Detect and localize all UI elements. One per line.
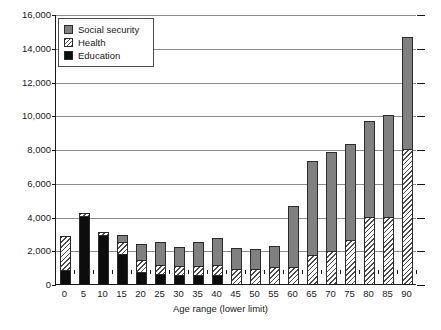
bar-slot[interactable]: [307, 15, 319, 284]
bar-segment-social-security[interactable]: [136, 244, 148, 260]
bar-stack[interactable]: [364, 121, 376, 284]
bar-stack[interactable]: [136, 244, 148, 284]
bar-segment-health[interactable]: [364, 217, 376, 284]
x-axis-tick: [169, 270, 170, 274]
bar-segment-social-security[interactable]: [326, 152, 338, 252]
legend-item-education: Education: [64, 49, 148, 62]
x-axis-tick-label: 45: [226, 288, 245, 299]
bar-segment-social-security[interactable]: [345, 144, 357, 240]
bar-segment-health[interactable]: [136, 260, 148, 272]
bar-slot[interactable]: [155, 15, 167, 284]
bar-segment-education[interactable]: [79, 216, 91, 284]
chart-legend: Social security Health Education: [58, 18, 154, 67]
bar-stack[interactable]: [193, 242, 205, 284]
y-axis-tick-label: 8,000: [27, 145, 51, 155]
bar-slot[interactable]: [174, 15, 186, 284]
bar-segment-health[interactable]: [117, 242, 129, 254]
education-swatch: [64, 51, 73, 60]
bar-slot[interactable]: [364, 15, 376, 284]
x-axis-tick-label: 60: [283, 288, 302, 299]
bar-slot[interactable]: [250, 15, 262, 284]
bar-segment-health[interactable]: [288, 267, 300, 284]
x-axis-tick: [131, 270, 132, 274]
bar-slot[interactable]: [193, 15, 205, 284]
bar-segment-social-security[interactable]: [383, 115, 395, 217]
bar-segment-education[interactable]: [155, 274, 167, 284]
bar-stack[interactable]: [231, 248, 243, 284]
bar-stack[interactable]: [155, 242, 167, 284]
y-axis-tick-right: [417, 218, 425, 219]
bar-stack[interactable]: [326, 152, 338, 284]
y-axis-tick-right: [417, 251, 425, 252]
bar-slot[interactable]: [383, 15, 395, 284]
bar-segment-education[interactable]: [136, 272, 148, 284]
y-axis-tick-right: [417, 116, 425, 117]
bar-segment-health[interactable]: [60, 236, 72, 270]
legend-item-health: Health: [64, 36, 148, 49]
bar-segment-health[interactable]: [326, 251, 338, 284]
bar-segment-health[interactable]: [231, 269, 243, 284]
bar-segment-social-security[interactable]: [174, 247, 186, 266]
bar-slot[interactable]: [231, 15, 243, 284]
bar-segment-social-security[interactable]: [402, 37, 414, 149]
bar-segment-education[interactable]: [212, 275, 224, 284]
bar-slot[interactable]: [288, 15, 300, 284]
bar-segment-health[interactable]: [193, 266, 205, 274]
bar-stack[interactable]: [345, 144, 357, 284]
bar-stack[interactable]: [269, 246, 281, 284]
x-axis-tick-label: 50: [245, 288, 264, 299]
bar-segment-education[interactable]: [117, 254, 129, 284]
bar-segment-education[interactable]: [174, 275, 186, 284]
x-axis-tick-label: 80: [359, 288, 378, 299]
bar-segment-health[interactable]: [307, 255, 319, 284]
bar-segment-education[interactable]: [98, 235, 110, 284]
x-axis-tick: [302, 270, 303, 274]
bar-slot[interactable]: [212, 15, 224, 284]
bar-slot[interactable]: [402, 15, 414, 284]
bar-segment-social-security[interactable]: [155, 242, 167, 266]
bar-segment-health[interactable]: [155, 265, 167, 273]
bar-stack[interactable]: [250, 249, 262, 284]
bar-stack[interactable]: [98, 232, 110, 284]
bar-segment-social-security[interactable]: [212, 238, 224, 265]
x-axis-tick: [416, 270, 417, 274]
x-axis-tick-label: 30: [169, 288, 188, 299]
bar-stack[interactable]: [383, 115, 395, 284]
bar-segment-health[interactable]: [383, 217, 395, 284]
bar-stack[interactable]: [402, 37, 414, 284]
bar-segment-social-security[interactable]: [193, 242, 205, 266]
x-axis-tick-label: 40: [207, 288, 226, 299]
bar-segment-social-security[interactable]: [307, 161, 319, 256]
bar-slot[interactable]: [269, 15, 281, 284]
bar-stack[interactable]: [212, 238, 224, 284]
bar-stack[interactable]: [117, 235, 129, 284]
bar-segment-social-security[interactable]: [269, 246, 281, 267]
x-axis-tick: [378, 270, 379, 274]
bar-segment-health[interactable]: [345, 240, 357, 284]
bar-segment-health[interactable]: [212, 265, 224, 274]
bar-slot[interactable]: [326, 15, 338, 284]
bar-stack[interactable]: [79, 213, 91, 284]
bar-segment-health[interactable]: [174, 266, 186, 274]
bar-segment-social-security[interactable]: [117, 235, 129, 242]
x-axis-tick: [226, 270, 227, 274]
bar-stack[interactable]: [60, 236, 72, 284]
bar-segment-education[interactable]: [60, 270, 72, 284]
x-axis-tick: [93, 270, 94, 274]
health-swatch: [64, 38, 73, 47]
y-axis-tick-label: 6,000: [27, 179, 51, 189]
bar-segment-health[interactable]: [250, 269, 262, 284]
bar-segment-social-security[interactable]: [250, 249, 262, 268]
bar-segment-social-security[interactable]: [231, 248, 243, 269]
y-axis-tick-label: 4,000: [27, 213, 51, 223]
bar-segment-health[interactable]: [402, 149, 414, 284]
bar-stack[interactable]: [174, 247, 186, 284]
bar-segment-social-security[interactable]: [288, 206, 300, 268]
bar-stack[interactable]: [307, 161, 319, 284]
bar-segment-social-security[interactable]: [364, 121, 376, 217]
bar-slot[interactable]: [345, 15, 357, 284]
bar-segment-health[interactable]: [269, 267, 281, 284]
x-axis-tick-label: 20: [131, 288, 150, 299]
bar-stack[interactable]: [288, 206, 300, 284]
bar-segment-education[interactable]: [193, 275, 205, 284]
